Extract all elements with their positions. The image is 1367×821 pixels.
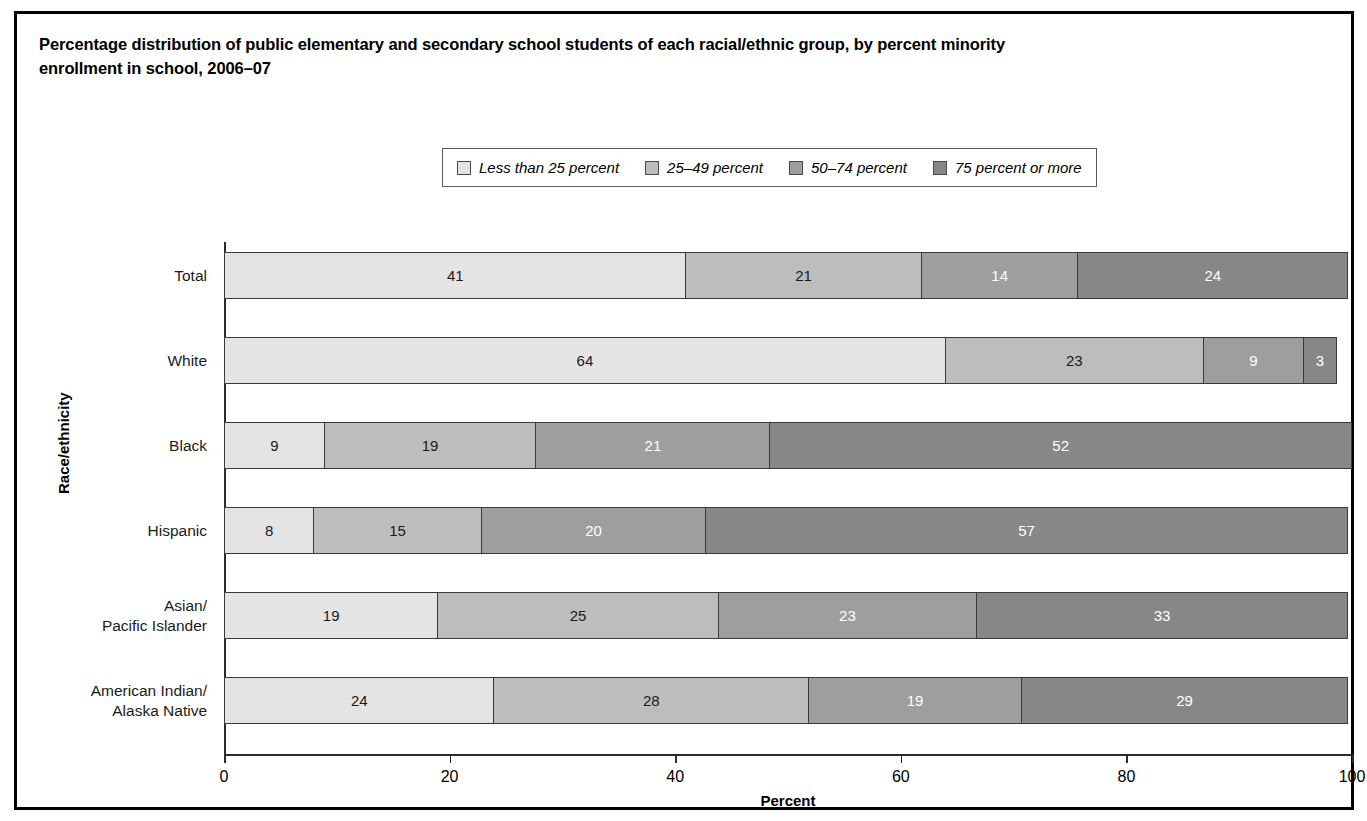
bar-segment[interactable]: 64 bbox=[224, 337, 946, 384]
category-label: Hispanic bbox=[0, 521, 207, 541]
bar-segment-value: 28 bbox=[643, 692, 660, 709]
bar-segment[interactable]: 19 bbox=[324, 422, 537, 469]
stacked-bar[interactable]: 19252333 bbox=[224, 592, 1352, 639]
bar-segment-value: 9 bbox=[270, 437, 278, 454]
stacked-bar[interactable]: 9192152 bbox=[224, 422, 1352, 469]
legend-item-label: Less than 25 percent bbox=[479, 159, 619, 176]
bar-segment[interactable]: 23 bbox=[718, 592, 977, 639]
category-label: White bbox=[0, 351, 207, 371]
legend-item-label: 50–74 percent bbox=[811, 159, 907, 176]
x-axis-tick bbox=[450, 754, 452, 763]
bar-segment-value: 19 bbox=[323, 607, 340, 624]
stacked-bar[interactable]: 642393 bbox=[224, 337, 1352, 384]
bar-segment[interactable]: 3 bbox=[1303, 337, 1337, 384]
x-axis-tick-label: 0 bbox=[220, 768, 229, 786]
x-axis-tick-label: 40 bbox=[666, 768, 684, 786]
plot-area: 41211424Total642393White9192152Black8152… bbox=[224, 242, 1352, 754]
bar-segment-value: 24 bbox=[1204, 267, 1221, 284]
x-axis-tick-label: 60 bbox=[892, 768, 910, 786]
x-axis-tick bbox=[224, 754, 226, 763]
bar-segment[interactable]: 29 bbox=[1021, 677, 1348, 724]
stacked-bar[interactable]: 24281929 bbox=[224, 677, 1352, 724]
legend-swatch-icon bbox=[457, 161, 471, 175]
chart-legend: Less than 25 percent25–49 percent50–74 p… bbox=[442, 148, 1097, 187]
chart-title-line-1: Percentage distribution of public elemen… bbox=[39, 32, 1309, 56]
bar-segment-value: 21 bbox=[795, 267, 812, 284]
bar-segment-value: 23 bbox=[1066, 352, 1083, 369]
category-label-line: Black bbox=[0, 436, 207, 456]
stacked-bar[interactable]: 8152057 bbox=[224, 507, 1352, 554]
category-label-line: White bbox=[0, 351, 207, 371]
category-label-line: Pacific Islander bbox=[0, 616, 207, 636]
bar-segment[interactable]: 33 bbox=[976, 592, 1348, 639]
legend-item[interactable]: 50–74 percent bbox=[789, 159, 907, 176]
chart-figure: Percentage distribution of public elemen… bbox=[14, 11, 1354, 810]
legend-swatch-icon bbox=[789, 161, 803, 175]
legend-swatch-icon bbox=[645, 161, 659, 175]
bar-segment[interactable]: 21 bbox=[535, 422, 770, 469]
category-label: American Indian/Alaska Native bbox=[0, 681, 207, 721]
bar-segment[interactable]: 15 bbox=[313, 507, 482, 554]
bar-segment-value: 41 bbox=[447, 267, 464, 284]
bar-segment-value: 21 bbox=[645, 437, 662, 454]
legend-item[interactable]: 25–49 percent bbox=[645, 159, 763, 176]
category-label: Black bbox=[0, 436, 207, 456]
chart-title-line-2: enrollment in school, 2006–07 bbox=[39, 56, 1309, 80]
bar-segment[interactable]: 28 bbox=[493, 677, 809, 724]
x-axis-title: Percent bbox=[224, 792, 1352, 809]
bar-segment[interactable]: 19 bbox=[808, 677, 1022, 724]
bar-segment-value: 57 bbox=[1018, 522, 1035, 539]
x-axis-tick-label: 100 bbox=[1339, 768, 1366, 786]
x-axis-tick-label: 80 bbox=[1117, 768, 1135, 786]
bar-segment[interactable]: 19 bbox=[224, 592, 438, 639]
chart-title: Percentage distribution of public elemen… bbox=[39, 32, 1309, 80]
bar-segment[interactable]: 20 bbox=[481, 507, 707, 554]
bar-segment-value: 23 bbox=[839, 607, 856, 624]
x-axis-tick-label: 20 bbox=[441, 768, 459, 786]
bar-segment[interactable]: 21 bbox=[685, 252, 922, 299]
bar-segment[interactable]: 9 bbox=[224, 422, 325, 469]
bar-segment[interactable]: 14 bbox=[921, 252, 1079, 299]
legend-item[interactable]: 75 percent or more bbox=[933, 159, 1082, 176]
legend-item[interactable]: Less than 25 percent bbox=[457, 159, 619, 176]
category-label: Total bbox=[0, 266, 207, 286]
bar-segment-value: 14 bbox=[991, 267, 1008, 284]
category-label-line: Hispanic bbox=[0, 521, 207, 541]
legend-item-label: 75 percent or more bbox=[955, 159, 1082, 176]
bar-segment[interactable]: 41 bbox=[224, 252, 686, 299]
x-axis-tick bbox=[1126, 754, 1128, 763]
x-axis-tick bbox=[675, 754, 677, 763]
bar-segment[interactable]: 23 bbox=[945, 337, 1204, 384]
bar-segment[interactable]: 52 bbox=[769, 422, 1352, 469]
legend-item-label: 25–49 percent bbox=[667, 159, 763, 176]
bar-segment-value: 19 bbox=[907, 692, 924, 709]
category-label-line: Alaska Native bbox=[0, 701, 207, 721]
bar-segment[interactable]: 24 bbox=[1077, 252, 1348, 299]
bar-segment-value: 3 bbox=[1316, 352, 1324, 369]
bar-segment[interactable]: 24 bbox=[224, 677, 495, 724]
bar-segment[interactable]: 57 bbox=[705, 507, 1348, 554]
category-label-line: Asian/ bbox=[0, 596, 207, 616]
bar-segment-value: 24 bbox=[351, 692, 368, 709]
bar-segment[interactable]: 8 bbox=[224, 507, 314, 554]
bar-segment-value: 19 bbox=[422, 437, 439, 454]
category-label: Asian/Pacific Islander bbox=[0, 596, 207, 636]
stacked-bar[interactable]: 41211424 bbox=[224, 252, 1352, 299]
x-axis-line bbox=[224, 754, 1352, 756]
bar-segment-value: 64 bbox=[577, 352, 594, 369]
bar-segment[interactable]: 9 bbox=[1203, 337, 1305, 384]
bar-segment-value: 33 bbox=[1154, 607, 1171, 624]
bar-segment-value: 20 bbox=[585, 522, 602, 539]
bar-segment-value: 25 bbox=[570, 607, 587, 624]
bar-segment-value: 15 bbox=[389, 522, 406, 539]
x-axis-tick bbox=[901, 754, 903, 763]
y-axis-title: Race/ethnicity bbox=[55, 392, 72, 494]
legend-swatch-icon bbox=[933, 161, 947, 175]
category-label-line: American Indian/ bbox=[0, 681, 207, 701]
bar-segment-value: 8 bbox=[265, 522, 273, 539]
bar-segment-value: 9 bbox=[1249, 352, 1257, 369]
bar-segment-value: 52 bbox=[1052, 437, 1069, 454]
bar-segment-value: 29 bbox=[1176, 692, 1193, 709]
x-axis-tick bbox=[1352, 754, 1354, 763]
bar-segment[interactable]: 25 bbox=[437, 592, 719, 639]
